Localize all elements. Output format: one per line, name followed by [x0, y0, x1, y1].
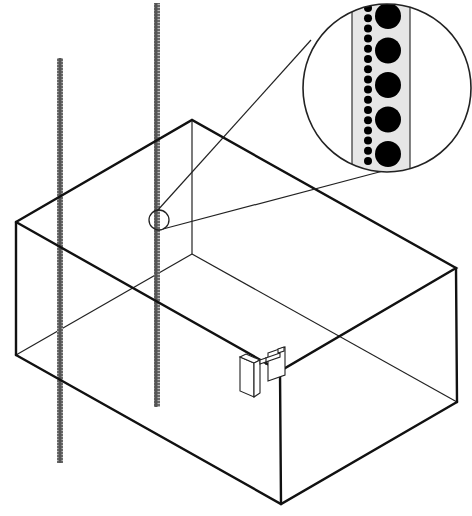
right-vertical-edge: [456, 268, 457, 402]
diagram-canvas: Box enclosure with perforated vertical r…: [0, 0, 472, 516]
corner-bracket: [240, 347, 285, 397]
callout-line-upper: [157, 40, 311, 211]
box-bottom-edges: [16, 355, 457, 504]
back-right-bottom-edge: [192, 254, 457, 402]
magnified-detail: [303, 0, 471, 180]
box-outline: [16, 120, 457, 504]
callout-line-lower: [163, 171, 383, 229]
middle-rail: [154, 3, 160, 407]
left-rail: [57, 58, 63, 463]
back-left-bottom-edge: [16, 254, 192, 355]
vertical-rails: [57, 3, 160, 463]
diagram-svg: [0, 0, 472, 516]
front-vertical-edge: [280, 371, 281, 504]
